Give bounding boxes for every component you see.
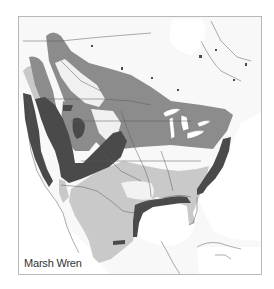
map-title: Marsh Wren <box>23 257 83 269</box>
caribbean-sea <box>197 247 262 275</box>
map-canvas <box>19 17 262 275</box>
range-map: Marsh Wren <box>18 16 262 275</box>
